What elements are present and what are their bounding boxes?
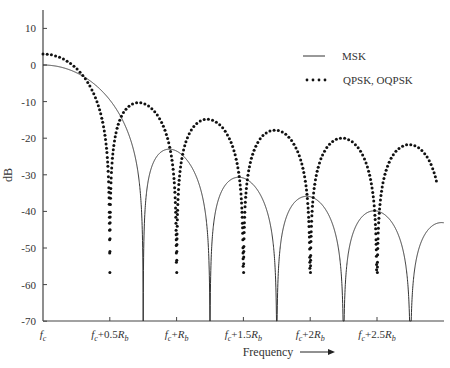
qpsk-point bbox=[243, 211, 246, 214]
qpsk-point bbox=[101, 121, 104, 124]
qpsk-point bbox=[135, 101, 138, 104]
qpsk-point bbox=[281, 131, 284, 134]
qpsk-point bbox=[162, 125, 165, 128]
qpsk-point bbox=[299, 158, 302, 161]
qpsk-point bbox=[359, 150, 362, 153]
qpsk-point bbox=[158, 117, 161, 120]
qpsk-point bbox=[312, 192, 315, 195]
qpsk-point bbox=[114, 135, 117, 138]
qpsk-point bbox=[103, 134, 106, 137]
qpsk-point bbox=[188, 132, 191, 135]
qpsk-point bbox=[307, 211, 310, 214]
qpsk-point bbox=[124, 108, 127, 111]
qpsk-point bbox=[109, 197, 112, 200]
qpsk-point bbox=[284, 133, 287, 136]
qpsk-point bbox=[177, 188, 180, 191]
legend-msk-label: MSK bbox=[342, 50, 366, 62]
qpsk-point bbox=[176, 209, 179, 212]
qpsk-point bbox=[311, 205, 314, 208]
qpsk-point bbox=[379, 194, 382, 197]
qpsk-point bbox=[62, 58, 65, 61]
x-tick-label: fc+0.5Rb bbox=[91, 328, 128, 343]
qpsk-point bbox=[107, 175, 110, 178]
qpsk-point bbox=[301, 167, 304, 170]
qpsk-point bbox=[307, 207, 310, 210]
qpsk-point bbox=[224, 130, 227, 133]
qpsk-point bbox=[256, 141, 259, 144]
qpsk-point bbox=[383, 173, 386, 176]
qpsk-point bbox=[234, 153, 237, 156]
qpsk-point bbox=[175, 243, 178, 246]
curves bbox=[42, 53, 444, 321]
qpsk-point bbox=[120, 115, 123, 118]
qpsk-point bbox=[371, 186, 374, 189]
qpsk-point bbox=[105, 147, 108, 150]
qpsk-point bbox=[377, 221, 380, 224]
qpsk-point bbox=[182, 149, 185, 152]
qpsk-point bbox=[305, 193, 308, 196]
qpsk-point bbox=[307, 220, 310, 223]
qpsk-point bbox=[110, 171, 113, 174]
qpsk-point bbox=[177, 183, 180, 186]
qpsk-point bbox=[378, 212, 381, 215]
qpsk-point bbox=[109, 181, 112, 184]
qpsk-point bbox=[245, 183, 248, 186]
qpsk-point bbox=[370, 182, 373, 185]
qpsk-point bbox=[413, 144, 416, 147]
qpsk-point bbox=[172, 172, 175, 175]
qpsk-point bbox=[131, 102, 134, 105]
qpsk-point bbox=[312, 196, 315, 199]
qpsk-point bbox=[230, 141, 233, 144]
qpsk-point bbox=[139, 101, 142, 104]
qpsk-point bbox=[386, 165, 389, 168]
qpsk-point bbox=[373, 214, 376, 217]
qpsk-point bbox=[361, 154, 364, 157]
qpsk-point bbox=[232, 149, 235, 152]
qpsk-point bbox=[309, 254, 312, 257]
y-tick-label: -50 bbox=[21, 242, 36, 254]
y-tick-label: -30 bbox=[21, 169, 36, 181]
qpsk-point bbox=[246, 174, 249, 177]
qpsk-point bbox=[244, 191, 247, 194]
qpsk-point bbox=[108, 250, 111, 253]
qpsk-point bbox=[433, 171, 436, 174]
qpsk-point bbox=[313, 187, 316, 190]
qpsk-point bbox=[167, 141, 170, 144]
qpsk-point bbox=[109, 221, 112, 224]
qpsk-point bbox=[176, 237, 179, 240]
qpsk-point bbox=[250, 157, 253, 160]
qpsk-point bbox=[374, 227, 377, 230]
qpsk-point bbox=[319, 157, 322, 160]
qpsk-point bbox=[354, 143, 357, 146]
qpsk-point bbox=[174, 201, 177, 204]
qpsk-point bbox=[240, 202, 243, 205]
qpsk-point bbox=[42, 53, 45, 56]
qpsk-point bbox=[251, 153, 254, 156]
qpsk-point bbox=[175, 229, 178, 232]
qpsk-point bbox=[109, 191, 112, 194]
qpsk-point bbox=[273, 129, 276, 132]
qpsk-point bbox=[313, 183, 316, 186]
qpsk-point bbox=[99, 112, 102, 115]
qpsk-point bbox=[235, 158, 238, 161]
qpsk-point bbox=[434, 175, 437, 178]
qpsk-point bbox=[186, 136, 189, 139]
qpsk-point bbox=[377, 227, 380, 230]
qpsk-point bbox=[378, 207, 381, 210]
qpsk-point bbox=[169, 150, 172, 153]
qpsk-point bbox=[381, 181, 384, 184]
qpsk-point bbox=[343, 137, 346, 140]
y-tick-label: 0 bbox=[31, 59, 37, 71]
qpsk-point bbox=[242, 262, 245, 265]
qpsk-point bbox=[177, 193, 180, 196]
qpsk-point bbox=[245, 187, 248, 190]
qpsk-point bbox=[170, 154, 173, 157]
qpsk-point bbox=[311, 210, 314, 213]
qpsk-point bbox=[376, 271, 379, 274]
qpsk-point bbox=[118, 119, 121, 122]
y-tick-label: -70 bbox=[21, 315, 36, 327]
qpsk-point bbox=[69, 62, 72, 65]
qpsk-point bbox=[168, 146, 171, 149]
qpsk-point bbox=[287, 136, 290, 139]
qpsk-point bbox=[331, 140, 334, 143]
